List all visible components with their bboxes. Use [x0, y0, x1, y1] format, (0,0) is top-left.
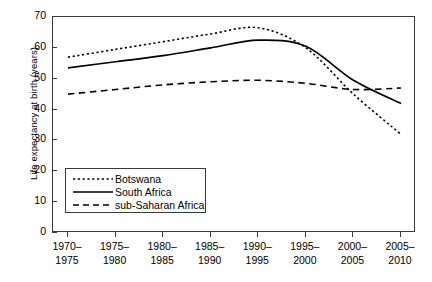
y-tick-mark: [52, 47, 57, 48]
chart-legend: Botswana South Africa sub-Saharan Africa: [65, 168, 206, 213]
y-tick-mark: [52, 139, 57, 140]
x-tick-mark: [210, 232, 211, 237]
y-tick-label: 50: [22, 72, 46, 82]
legend-label-sub-saharan-africa: sub-Saharan Africa: [115, 199, 204, 211]
legend-label-south-africa: South Africa: [115, 186, 172, 198]
y-tick-mark: [52, 16, 57, 17]
x-tick-label: 2005–2010: [370, 240, 430, 267]
x-tick-mark: [162, 232, 163, 237]
legend-item-botswana: Botswana: [71, 172, 205, 185]
x-tick-mark: [305, 232, 306, 237]
x-tick-mark: [257, 232, 258, 237]
legend-swatch-dashed-icon: [71, 199, 115, 211]
legend-label-botswana: Botswana: [115, 173, 161, 185]
y-tick-mark: [52, 109, 57, 110]
y-tick-label: 60: [22, 41, 46, 51]
x-tick-mark: [67, 232, 68, 237]
y-tick-label: 40: [22, 103, 46, 113]
x-tick-mark: [352, 232, 353, 237]
chart-figure: Life expectancy at birth (years) 0102030…: [0, 0, 432, 282]
legend-swatch-solid-icon: [71, 186, 115, 198]
x-tick-mark: [400, 232, 401, 237]
y-tick-label: 70: [22, 10, 46, 20]
y-tick-mark: [52, 78, 57, 79]
legend-item-sub-saharan-africa: sub-Saharan Africa: [71, 198, 205, 211]
series-line-south-africa: [68, 40, 401, 103]
y-tick-mark: [52, 201, 57, 202]
y-tick-mark: [52, 232, 57, 233]
y-tick-label: 0: [22, 226, 46, 236]
legend-item-south-africa: South Africa: [71, 185, 205, 198]
y-tick-label: 10: [22, 195, 46, 205]
y-tick-mark: [52, 170, 57, 171]
legend-swatch-dotted-icon: [71, 173, 115, 185]
y-tick-label: 20: [22, 164, 46, 174]
x-tick-mark: [115, 232, 116, 237]
y-tick-label: 30: [22, 133, 46, 143]
